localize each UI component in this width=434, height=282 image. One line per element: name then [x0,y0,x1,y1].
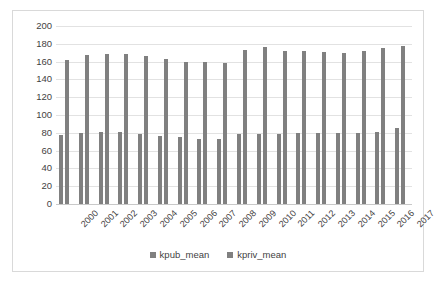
bar-group [155,26,175,204]
bar-group [333,26,353,204]
x-axis-tick-label: 2016 [395,208,416,229]
bar-group [254,26,274,204]
bar-kpub_mean-2014[interactable] [336,133,340,204]
x-axis-tick-label: 2012 [316,208,337,229]
bar-kpub_mean-2002[interactable] [99,132,103,204]
x-axis-tick-label: 2002 [118,208,139,229]
x-axis-tick-label: 2007 [217,208,238,229]
bar-group [135,26,155,204]
bar-group [214,26,234,204]
bar-kpriv_mean-2015[interactable] [362,51,366,204]
x-axis-tick-label: 2005 [178,208,199,229]
x-axis-tick-label: 2014 [356,208,377,229]
x-axis-tick-label: 2017 [415,208,434,229]
bar-group [194,26,214,204]
bar-kpub_mean-2001[interactable] [79,133,83,204]
bar-group [115,26,135,204]
bar-group [274,26,294,204]
bar-group [56,26,76,204]
x-axis-tick-label: 2010 [277,208,298,229]
legend-swatch-icon [150,252,156,258]
x-axis-tick-label: 2008 [237,208,258,229]
y-axis-tick-label: 180 [18,39,52,48]
legend-item[interactable]: kpub_mean [150,249,210,260]
x-axis: 2000200120022003200420052006200720082009… [56,205,412,245]
bar-kpub_mean-2000[interactable] [59,135,63,204]
bar-kpriv_mean-2009[interactable] [243,50,247,204]
bar-kpriv_mean-2001[interactable] [85,55,89,204]
bar-group [293,26,313,204]
bar-kpub_mean-2013[interactable] [316,133,320,204]
chart-frame: 200180160140120100806040200 200020012002… [12,10,424,272]
bar-kpub_mean-2005[interactable] [158,136,162,204]
y-axis: 200180160140120100806040200 [13,26,52,204]
y-axis-tick-label: 140 [18,74,52,83]
bar-kpriv_mean-2013[interactable] [322,52,326,204]
bar-group [234,26,254,204]
bar-kpriv_mean-2002[interactable] [105,54,109,204]
bar-kpriv_mean-2000[interactable] [65,60,69,204]
bar-kpriv_mean-2011[interactable] [283,51,287,204]
x-axis-tick-label: 2015 [375,208,396,229]
bar-kpriv_mean-2016[interactable] [381,48,385,204]
bar-kpriv_mean-2012[interactable] [302,51,306,204]
x-axis-tick-label: 2013 [336,208,357,229]
y-axis-tick-label: 200 [18,21,52,30]
legend-swatch-icon [227,252,233,258]
x-axis-tick-label: 2001 [99,208,120,229]
bar-group [96,26,116,204]
legend-item[interactable]: kpriv_mean [227,249,286,260]
x-axis-tick-label: 2000 [79,208,100,229]
bar-kpriv_mean-2014[interactable] [342,53,346,204]
x-axis-tick-label: 2009 [257,208,278,229]
bar-kpub_mean-2009[interactable] [237,134,241,204]
y-axis-tick-label: 100 [18,110,52,119]
bar-kpub_mean-2016[interactable] [375,132,379,204]
chart-legend: kpub_meankpriv_mean [13,249,423,260]
bar-kpub_mean-2015[interactable] [356,133,360,204]
bar-kpub_mean-2007[interactable] [197,139,201,204]
bar-kpub_mean-2003[interactable] [118,132,122,204]
bar-group [313,26,333,204]
x-axis-tick-label: 2006 [197,208,218,229]
bar-kpriv_mean-2017[interactable] [401,46,405,204]
bar-kpriv_mean-2007[interactable] [203,62,207,204]
bar-group [392,26,412,204]
bar-kpriv_mean-2005[interactable] [164,59,168,204]
y-axis-tick-label: 160 [18,57,52,66]
y-axis-tick-label: 80 [18,128,52,137]
legend-label: kpub_mean [160,249,210,260]
x-axis-tick-label: 2003 [138,208,159,229]
bar-kpriv_mean-2004[interactable] [144,56,148,204]
bar-kpub_mean-2012[interactable] [296,133,300,204]
bar-group [76,26,96,204]
y-axis-tick-label: 120 [18,92,52,101]
bar-kpub_mean-2011[interactable] [277,134,281,204]
y-axis-tick-label: 60 [18,146,52,155]
bar-kpriv_mean-2006[interactable] [184,62,188,204]
bar-kpriv_mean-2003[interactable] [124,54,128,204]
bar-kpub_mean-2010[interactable] [257,134,261,204]
bar-kpriv_mean-2008[interactable] [223,63,227,205]
x-axis-tick-label: 2011 [296,208,317,229]
bar-group [372,26,392,204]
bar-kpub_mean-2006[interactable] [178,137,182,204]
bar-kpub_mean-2017[interactable] [395,128,399,204]
bar-kpub_mean-2008[interactable] [217,139,221,204]
y-axis-tick-label: 20 [18,181,52,190]
y-axis-tick-label: 40 [18,163,52,172]
bar-kpriv_mean-2010[interactable] [263,47,267,204]
bar-group [175,26,195,204]
bar-kpub_mean-2004[interactable] [138,134,142,204]
x-axis-tick-label: 2004 [158,208,179,229]
legend-label: kpriv_mean [237,249,286,260]
plot-area [56,26,412,204]
bar-group [353,26,373,204]
y-axis-tick-label: 0 [18,199,52,208]
